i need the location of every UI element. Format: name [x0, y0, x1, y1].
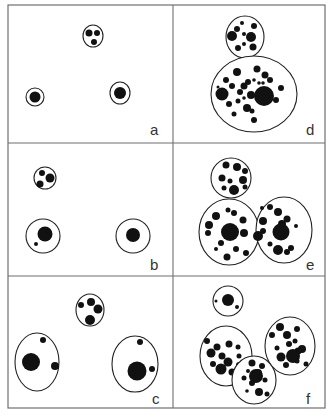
nucleus-dot [283, 331, 291, 339]
nucleus-dot [269, 332, 275, 338]
panel-label-c: c [152, 390, 160, 407]
cell [112, 336, 158, 392]
cell [199, 199, 259, 265]
nucleus-dot [228, 179, 233, 184]
nucleus-dot [38, 227, 53, 242]
nucleus-dot [219, 175, 226, 182]
nucleus-dot [274, 208, 282, 216]
nucleus-dot [259, 217, 267, 225]
nucleus-dot [250, 44, 257, 51]
nucleus-dot [253, 231, 263, 241]
nucleus-dot [237, 89, 243, 95]
nucleus-dot [259, 363, 265, 369]
nucleus-dot [294, 224, 298, 228]
panel-f: f [200, 286, 315, 407]
panel-d: d [211, 16, 314, 138]
nucleus-dot [275, 346, 280, 351]
nucleus-dot [78, 302, 84, 308]
nucleus-dot [251, 23, 257, 29]
nucleus-dot [224, 254, 231, 261]
cell [211, 158, 251, 198]
nucleus-dot [267, 204, 273, 210]
nucleus-dot [260, 206, 264, 210]
nucleus-dot [94, 305, 103, 314]
nucleus-dot [114, 87, 126, 99]
cell [83, 25, 103, 47]
cell-stages-figure: abcdef [0, 0, 331, 419]
cell [265, 317, 315, 375]
nucleus-dot [240, 229, 248, 237]
cell [211, 56, 297, 132]
nucleus-dot [242, 376, 247, 381]
nucleus-dot [239, 176, 247, 184]
nucleus-dot [216, 88, 229, 101]
nucleus-dot [286, 341, 292, 347]
nucleus-dot [233, 163, 241, 171]
nucleus-dot [137, 339, 143, 345]
nucleus-dot [257, 81, 261, 85]
panel-c: c [15, 294, 160, 407]
nucleus-dot [217, 86, 220, 89]
nucleus-dot [304, 362, 309, 367]
nucleus-dot [86, 30, 93, 37]
nucleus-dot [215, 300, 218, 303]
panel-label-e: e [306, 256, 314, 273]
nucleus-dot [240, 217, 247, 224]
cell [26, 219, 60, 253]
nucleus-dot [233, 68, 241, 76]
nucleus-dot [254, 66, 261, 73]
nucleus-dot [204, 338, 210, 344]
panel-label-d: d [306, 121, 314, 138]
nucleus-dot [51, 362, 59, 370]
nucleus-dot [205, 221, 213, 229]
nucleus-dot [34, 242, 38, 246]
nucleus-dot [267, 77, 273, 83]
nucleus-dot [242, 32, 246, 36]
nucleus-dot [226, 101, 232, 107]
nucleus-dot [241, 83, 248, 90]
nucleus-dot [39, 170, 45, 176]
nucleus-dot [214, 344, 221, 351]
nucleus-dot [263, 378, 268, 383]
nucleus-dot [242, 168, 248, 174]
nucleus-dot [40, 337, 46, 343]
nucleus-dot [227, 31, 237, 41]
nucleus-dot [288, 245, 294, 251]
nucleus-dot [246, 369, 250, 373]
nucleus-dot [91, 39, 97, 45]
nucleus-dot [240, 21, 244, 25]
cell [253, 197, 312, 263]
nucleus-dot [252, 78, 256, 82]
nucleus-dot [214, 247, 218, 251]
nucleus-dot [262, 72, 269, 79]
cell [213, 286, 243, 316]
nucleus-dot [216, 364, 227, 375]
nucleus-dot [205, 230, 211, 236]
nucleus-dot [268, 242, 273, 247]
nucleus-dot [219, 353, 226, 360]
nucleus-dot [251, 117, 257, 123]
panel-a: a [26, 25, 159, 138]
nucleus-dot [30, 92, 41, 103]
nucleus-dot [277, 353, 286, 362]
nucleus-dot [229, 83, 235, 89]
nucleus-dot [242, 42, 246, 46]
nucleus-dot [254, 86, 274, 106]
nucleus-dot [242, 96, 246, 100]
nucleus-dot [243, 250, 249, 256]
nucleus-dot [249, 360, 256, 367]
nucleus-dot [235, 45, 241, 51]
nucleus-dot [273, 245, 283, 255]
nucleus-dot [226, 208, 231, 213]
nucleus-dot [293, 339, 298, 344]
panels: abcdef [15, 16, 315, 407]
nucleus-dot [212, 212, 220, 220]
cell [34, 167, 56, 189]
nucleus-dot [94, 30, 100, 36]
nucleus-dot [233, 246, 239, 252]
nucleus-dot [246, 32, 256, 42]
nucleus-dot [249, 380, 255, 386]
nucleus-dot [294, 326, 300, 332]
nucleus-dot [283, 362, 289, 368]
nucleus-dot [232, 112, 237, 117]
